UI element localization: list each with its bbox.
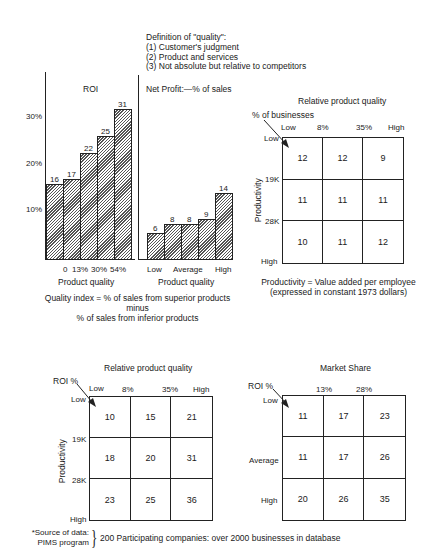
- grid-cell: 23: [90, 479, 131, 520]
- roi-quality-row-28k: 28K: [72, 477, 86, 485]
- profit-value-3: 8: [187, 216, 191, 224]
- roi-y-tick-30: 30%: [26, 113, 42, 121]
- roi-share-grid-title: Market Share: [320, 364, 371, 373]
- roi-quality-row-low: Low: [71, 396, 86, 404]
- roi-quality-row-high: High: [70, 516, 86, 524]
- roi-quality-col-35: 35%: [162, 386, 178, 394]
- profit-x-tick-average: Average: [173, 266, 203, 274]
- roi-quality-col-low: Low: [89, 385, 104, 393]
- grid-cell: 9: [363, 138, 403, 180]
- grid-cell: 20: [283, 479, 324, 520]
- roi-share-grid: 11 17 23 11 17 26 20 26 35: [282, 395, 406, 521]
- profit-x-tick-low: Low: [147, 266, 162, 274]
- productivity-note-line-2: (expressed in constant 1973 dollars): [250, 287, 427, 297]
- businesses-col-high: High: [388, 124, 404, 132]
- roi-bar-1: [46, 184, 64, 260]
- grid-cell: 10: [283, 221, 323, 263]
- grid-cell: 25: [131, 479, 172, 520]
- roi-quality-grid: 10 15 21 18 20 31 23 25 36: [89, 396, 213, 521]
- grid-cell: 26: [364, 437, 405, 478]
- grid-cell: 18: [90, 438, 131, 479]
- roi-y-tick-20: 20%: [26, 160, 42, 168]
- definition-item-1: (1) Customer's judgment: [146, 43, 239, 52]
- roi-bar-2: [63, 179, 81, 260]
- source-label: *Source of data: PIMS program: [25, 528, 89, 548]
- grid-cell: 35: [364, 479, 405, 520]
- businesses-row-19k: 19K: [265, 176, 279, 184]
- profit-bar-4: [198, 219, 216, 260]
- roi-x-label: Product quality: [58, 278, 114, 287]
- roi-bar-5: [114, 109, 132, 260]
- quality-index-line-3: % of sales from inferior products: [30, 313, 245, 323]
- profit-bar-1: [147, 233, 165, 260]
- roi-value-4: 25: [101, 128, 110, 136]
- roi-quality-axis-label: Productivity: [58, 436, 67, 486]
- grid-cell: 12: [283, 138, 323, 180]
- source-line-1: *Source of data:: [25, 528, 89, 538]
- businesses-grid-title: Relative product quality: [298, 97, 386, 106]
- businesses-grid: 12 12 9 11 11 11 10 11 12: [282, 137, 404, 264]
- businesses-row-high: High: [261, 258, 277, 266]
- grid-cell: 12: [323, 138, 363, 180]
- profit-x-label: Product quality: [158, 278, 214, 287]
- grid-cell: 20: [131, 438, 172, 479]
- roi-share-row-average: Average: [249, 457, 279, 465]
- roi-value-5: 31: [118, 101, 127, 109]
- grid-cell: 11: [283, 180, 323, 222]
- roi-value-3: 22: [84, 145, 93, 153]
- grid-cell: 15: [131, 397, 172, 438]
- grid-cell: 11: [323, 180, 363, 222]
- profit-bar-5: [215, 193, 233, 260]
- roi-quality-col-high: High: [193, 386, 209, 394]
- roi-share-corner-label: ROI %: [248, 382, 273, 391]
- roi-share-row-low: Low: [263, 397, 278, 405]
- grid-cell: 11: [283, 396, 324, 437]
- profit-value-2: 8: [170, 216, 174, 224]
- profit-x-tick-high: High: [215, 266, 231, 274]
- roi-x-tick-54: 54%: [110, 266, 126, 274]
- roi-value-1: 16: [50, 176, 59, 184]
- roi-share-col-28: 28%: [356, 386, 372, 394]
- roi-quality-grid-title: Relative product quality: [104, 364, 192, 373]
- grid-cell: 17: [324, 437, 365, 478]
- definition-title: Definition of "quality":: [146, 33, 226, 42]
- grid-cell: 11: [323, 221, 363, 263]
- productivity-note-line-1: Productivity = Value added per employee: [250, 277, 427, 287]
- source-line-2: PIMS program: [25, 538, 89, 548]
- roi-quality-row-19k: 19K: [72, 436, 86, 444]
- businesses-row-28k: 28K: [265, 218, 279, 226]
- roi-x-tick-0: 0: [63, 266, 67, 274]
- businesses-axis-label: Productivity: [254, 175, 263, 225]
- grid-cell: 36: [171, 479, 212, 520]
- grid-cell: 10: [90, 397, 131, 438]
- profit-bar-2: [164, 224, 182, 260]
- businesses-col-8: 8%: [317, 124, 329, 132]
- quality-index-line-1: Quality index = % of sales from superior…: [30, 293, 245, 303]
- grid-cell: 31: [171, 438, 212, 479]
- profit-y-axis: [138, 75, 139, 260]
- grid-cell: 12: [363, 221, 403, 263]
- roi-x-tick-13: 13%: [72, 266, 88, 274]
- grid-cell: 11: [283, 437, 324, 478]
- profit-value-1: 6: [153, 225, 157, 233]
- grid-cell: 23: [364, 396, 405, 437]
- profit-value-5: 14: [219, 185, 228, 193]
- profit-value-4: 9: [204, 211, 208, 219]
- quality-index-line-2: minus: [30, 303, 245, 313]
- profit-chart-title: Net Profit:—% of sales: [146, 85, 232, 94]
- source-description: 200 Participating companies: over 2000 b…: [100, 534, 341, 543]
- definition-item-3: (3) Not absolute but relative to competi…: [146, 62, 306, 71]
- roi-bar-4: [97, 136, 115, 260]
- profit-bar-3: [181, 224, 199, 260]
- quality-index-note: Quality index = % of sales from superior…: [30, 293, 245, 323]
- roi-x-tick-30: 30%: [91, 266, 107, 274]
- roi-bar-3: [80, 153, 98, 260]
- businesses-col-35: 35%: [356, 124, 372, 132]
- productivity-note: Productivity = Value added per employee …: [250, 277, 427, 297]
- roi-chart-title: ROI: [83, 85, 98, 94]
- businesses-row-low: Low: [264, 135, 279, 143]
- roi-value-2: 17: [67, 171, 76, 179]
- roi-y-tick-10: 10%: [26, 206, 42, 214]
- brace-icon: }: [91, 526, 97, 548]
- grid-cell: 11: [363, 180, 403, 222]
